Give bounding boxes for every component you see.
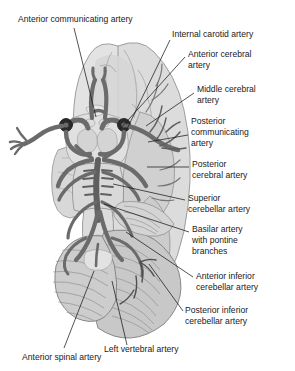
- label-anterior-spinal-artery: Anterior spinal artery: [22, 352, 102, 362]
- label-left-vertebral-artery: Left vertebral artery: [104, 344, 179, 354]
- label-anterior-communicating-artery: Anterior communicating artery: [18, 14, 133, 24]
- label-posterior-inferior-cerebellar-artery: Posterior inferior cerebellar artery: [185, 305, 250, 326]
- brain-arterial-supply-diagram: Anterior communicating artery Internal c…: [0, 0, 295, 371]
- anatomy-figure: Anterior communicating artery Internal c…: [0, 0, 295, 371]
- label-internal-carotid-artery: Internal carotid artery: [172, 29, 254, 39]
- label-anterior-inferior-cerebellar-artery: Anterior inferior cerebellar artery: [196, 271, 259, 292]
